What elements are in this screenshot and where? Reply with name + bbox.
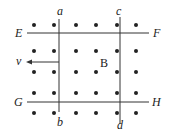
label-H: H bbox=[151, 95, 162, 109]
magnetic-field-diagram: a b c d E F G H v B bbox=[0, 0, 175, 140]
label-B: B bbox=[100, 56, 108, 70]
label-E: E bbox=[14, 26, 23, 40]
label-F: F bbox=[152, 26, 161, 40]
label-G: G bbox=[14, 95, 23, 109]
label-d: d bbox=[117, 118, 124, 132]
field-dots bbox=[32, 23, 138, 115]
label-b: b bbox=[57, 115, 63, 129]
velocity-arrow-icon bbox=[26, 60, 59, 65]
label-a: a bbox=[57, 4, 63, 18]
label-c: c bbox=[116, 4, 122, 18]
label-v: v bbox=[16, 54, 22, 68]
